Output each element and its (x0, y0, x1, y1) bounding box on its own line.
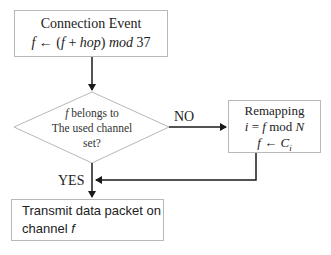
no-label: NO (174, 109, 194, 125)
remapping-index-formula: i = f mod N (229, 119, 320, 135)
transmit-box: Transmit data packet on channel f (11, 199, 164, 241)
connection-event-title: Connection Event (15, 14, 167, 33)
remapping-assign-formula: f ← Ci (229, 135, 320, 156)
connection-event-box: Connection Event f ← (f + hop) mod 37 (14, 10, 168, 57)
decision-text: f belongs to The used channel set? (40, 106, 144, 151)
remapping-title: Remapping (229, 103, 320, 119)
remapping-box: Remapping i = f mod N f ← Ci (228, 100, 321, 153)
flowchart-canvas: Connection Event f ← (f + hop) mod 37 f … (0, 0, 331, 255)
connector-remapping-return (96, 153, 256, 180)
hop-formula: f ← (f + hop) mod 37 (15, 33, 167, 52)
yes-label: YES (58, 173, 84, 189)
